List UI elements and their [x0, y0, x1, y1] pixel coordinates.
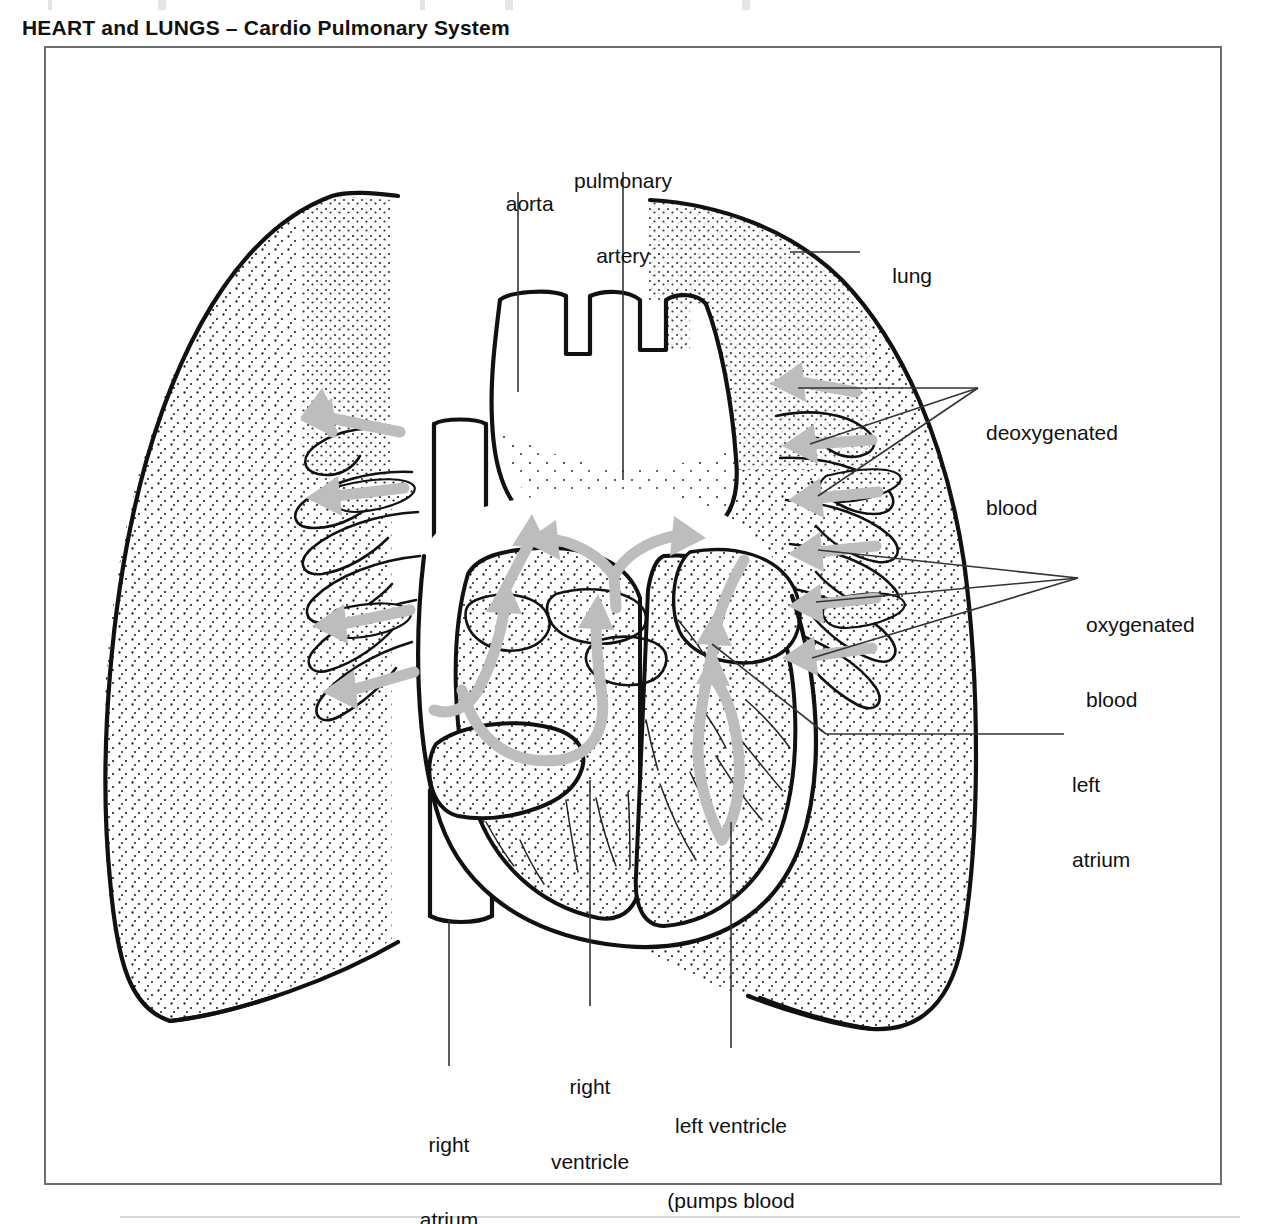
label-aorta-line-1: aorta — [506, 192, 554, 215]
label-left-ventricle: left ventricle (pumps blood around the b… — [652, 1063, 811, 1224]
label-pulmonary-artery-line-2: artery — [574, 243, 672, 268]
label-pulmonary-artery-line-1: pulmonary — [574, 168, 672, 193]
label-left-atrium-line-2: atrium — [1072, 847, 1130, 872]
label-right-atrium-line-2: atrium — [420, 1207, 478, 1224]
label-left-atrium: left atrium — [1072, 722, 1130, 922]
label-right-ventricle: right ventricle — [551, 1024, 629, 1224]
diagram-page: HEART and LUNGS – Cardio Pulmonary Syste… — [0, 0, 1268, 1224]
label-oxygenated-blood-line-2: blood — [1086, 687, 1195, 712]
label-right-ventricle-line-2: ventricle — [551, 1149, 629, 1174]
label-deoxygenated-blood-line-1: deoxygenated — [986, 420, 1118, 445]
label-right-atrium: right atrium — [420, 1082, 478, 1224]
label-lung-line-1: lung — [892, 264, 932, 287]
label-oxygenated-blood-line-1: oxygenated — [1086, 612, 1195, 637]
label-left-ventricle-line-1: left ventricle — [652, 1113, 811, 1138]
label-deoxygenated-blood-line-2: blood — [986, 495, 1118, 520]
label-deoxygenated-blood: deoxygenated blood — [986, 370, 1118, 570]
label-pulmonary-artery: pulmonary artery — [574, 118, 672, 318]
label-left-ventricle-line-2: (pumps blood — [652, 1188, 811, 1213]
label-lung: lung — [869, 238, 932, 313]
label-right-ventricle-line-1: right — [551, 1074, 629, 1099]
label-left-atrium-line-1: left — [1072, 772, 1130, 797]
label-right-atrium-line-1: right — [420, 1132, 478, 1157]
label-aorta: aorta — [482, 166, 553, 241]
